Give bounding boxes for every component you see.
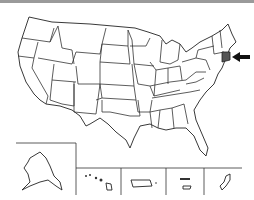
arrow-pointer-icon (232, 52, 250, 62)
connecticut-highlight (222, 52, 230, 62)
virgin-islands-inset (180, 178, 191, 189)
alaska-inset (22, 152, 62, 190)
guam-inset (220, 174, 230, 190)
hawaii-inset (85, 174, 112, 190)
puerto-rico-inset (131, 180, 152, 187)
contiguous-us (18, 17, 236, 156)
us-map (0, 0, 254, 200)
puerto-rico-island (155, 182, 157, 184)
